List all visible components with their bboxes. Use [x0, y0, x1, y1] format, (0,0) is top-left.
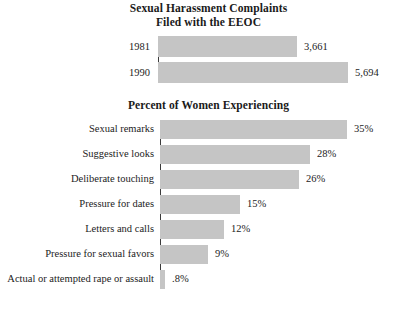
bar-row: Suggestive looks 28%: [160, 145, 399, 164]
category-label: Suggestive looks: [83, 148, 154, 160]
category-label: 1990: [129, 67, 150, 79]
bar: [160, 245, 208, 264]
category-label: Pressure for dates: [79, 198, 154, 210]
category-label: Sexual remarks: [89, 123, 154, 135]
category-label: Actual or attempted rape or assault: [7, 273, 154, 285]
bar: [160, 195, 240, 214]
bar: [160, 170, 299, 189]
chart-title-percent: Percent of Women Experiencing: [0, 99, 399, 113]
bar-row: Letters and calls 12%: [160, 220, 399, 239]
bar-row: Pressure for dates 15%: [160, 195, 399, 214]
value-label: 3,661: [304, 41, 328, 53]
bar: [160, 270, 165, 289]
value-label: 28%: [317, 148, 336, 160]
value-label: 5,694: [355, 67, 379, 79]
bar-row: Actual or attempted rape or assault .8%: [160, 270, 399, 289]
bar-row: Sexual remarks 35%: [160, 120, 399, 139]
bar: [158, 36, 297, 57]
category-label: Deliberate touching: [71, 173, 154, 185]
bar: [158, 62, 348, 83]
bar-row: 1981 3,661: [158, 36, 399, 57]
plot-area-percent: Sexual remarks 35% Suggestive looks 28% …: [160, 120, 399, 289]
category-label: Letters and calls: [85, 223, 154, 235]
category-label: 1981: [129, 41, 150, 53]
value-label: .8%: [172, 273, 189, 285]
percent-women-experiencing-chart: Percent of Women Experiencing Sexual rem…: [0, 99, 399, 289]
value-label: 35%: [354, 123, 373, 135]
bar-row: Deliberate touching 26%: [160, 170, 399, 189]
value-label: 15%: [247, 198, 266, 210]
value-label: 26%: [306, 173, 325, 185]
category-label: Pressure for sexual favors: [45, 248, 154, 260]
bar: [160, 120, 347, 139]
eeoc-complaints-chart: Sexual Harassment Complaints Filed with …: [0, 2, 399, 83]
bar-row: Pressure for sexual favors 9%: [160, 245, 399, 264]
chart-title-complaints: Sexual Harassment Complaints Filed with …: [0, 2, 399, 29]
bar: [160, 145, 310, 164]
bar: [160, 220, 224, 239]
plot-area-complaints: 1981 3,661 1990 5,694: [158, 36, 399, 83]
value-label: 9%: [215, 248, 229, 260]
bar-row: 1990 5,694: [158, 62, 399, 83]
value-label: 12%: [231, 223, 250, 235]
